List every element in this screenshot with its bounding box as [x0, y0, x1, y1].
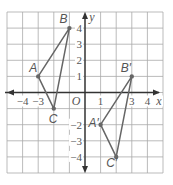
y-tick-label: −3: [70, 135, 82, 147]
coordinate-graph: −4−31344321−2−3−4Oxy ABCA′B′C′: [0, 0, 173, 185]
vertex-label: B′: [121, 61, 132, 75]
vertex-point: [52, 106, 56, 110]
x-tick-label: 3: [129, 95, 135, 107]
x-tick-label: −3: [32, 95, 44, 107]
vertex-label: B: [59, 12, 67, 26]
y-tick-label: 4: [77, 22, 83, 34]
tick-labels: −4−31344321−2−3−4Oxy: [16, 10, 163, 163]
vertex-point: [67, 26, 71, 30]
x-axis-arrow-left-icon: [7, 90, 14, 96]
x-tick-label: −4: [17, 95, 29, 107]
y-tick-label: −2: [70, 119, 82, 131]
vertex-label: C: [49, 112, 58, 126]
origin-label: O: [72, 94, 81, 108]
y-axis-arrow-up-icon: [82, 12, 88, 19]
vertex-point: [98, 123, 102, 127]
vertex-label: A′: [88, 116, 100, 130]
y-axis-arrow-down-icon: [82, 166, 88, 173]
y-axis-label: y: [88, 10, 95, 24]
x-tick-label: 1: [98, 95, 104, 107]
axes: [5, 12, 160, 173]
x-tick-label: 4: [145, 95, 151, 107]
vertex-label: C′: [106, 156, 118, 170]
x-axis-label: x: [155, 94, 162, 108]
vertex-label: A: [28, 61, 37, 75]
y-tick-label: 3: [77, 38, 83, 50]
y-tick-label: 2: [77, 54, 83, 66]
y-tick-label: −4: [70, 151, 82, 163]
y-tick-label: 1: [77, 70, 83, 82]
